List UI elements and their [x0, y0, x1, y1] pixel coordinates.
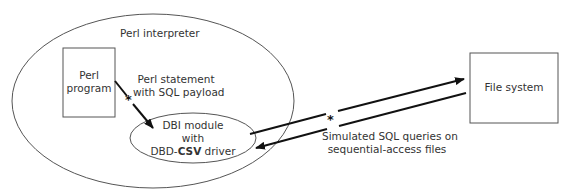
perl-interpreter-label: Perl interpreter — [120, 27, 200, 40]
dbi-line3: DBD-CSV driver — [148, 145, 238, 158]
perl-statement-label: Perl statement with SQL payload — [133, 73, 219, 99]
dbi-line3-bold: CSV — [178, 145, 202, 157]
star-marker-queries: * — [327, 113, 334, 126]
dbi-line3-suffix: driver — [201, 145, 235, 157]
dbi-line1: DBI module — [148, 119, 238, 132]
queries-line1: Simulated SQL queries on — [322, 130, 452, 143]
simulated-queries-label: Simulated SQL queries on sequential-acce… — [322, 130, 452, 156]
diagram-canvas — [0, 0, 572, 195]
dbi-module-label: DBI module with DBD-CSV driver — [148, 119, 238, 158]
perl-program-line1: Perl — [63, 69, 115, 82]
perl-statement-line2: with SQL payload — [133, 86, 219, 99]
dbi-to-filesystem-arrow-segment-2 — [338, 79, 464, 111]
perl-interpreter-ellipse — [12, 14, 294, 188]
queries-line2: sequential-access files — [322, 143, 452, 156]
star-marker-program: * — [125, 93, 132, 106]
filesystem-to-dbi-arrow-segment-2 — [256, 129, 327, 148]
dbi-line2: with — [148, 132, 238, 145]
perl-statement-line1: Perl statement — [133, 73, 219, 86]
perl-program-line2: program — [63, 82, 115, 95]
dbi-to-filesystem-arrow-segment-1 — [250, 114, 326, 134]
file-system-label: File system — [470, 81, 558, 94]
perl-program-label: Perl program — [63, 69, 115, 95]
dbi-line3-prefix: DBD- — [151, 145, 178, 157]
filesystem-to-dbi-arrow-segment-1 — [339, 93, 466, 126]
